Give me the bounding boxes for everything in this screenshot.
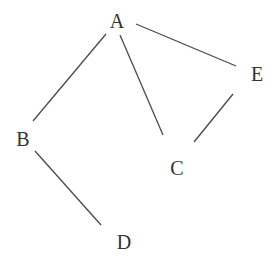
node-a-label: A: [110, 11, 124, 31]
node-e-label: E: [251, 64, 263, 84]
node-d-label: D: [117, 232, 131, 252]
node-c-label: C: [170, 158, 183, 178]
node-b-label: B: [16, 129, 29, 149]
edge-b-d: [35, 151, 101, 225]
edge-a-e: [136, 24, 236, 66]
edge-e-c: [194, 94, 233, 142]
graph-diagram: A B C D E: [0, 0, 277, 265]
graph-edges: [0, 0, 277, 265]
edge-a-b: [33, 34, 106, 121]
edge-a-c: [120, 35, 163, 135]
